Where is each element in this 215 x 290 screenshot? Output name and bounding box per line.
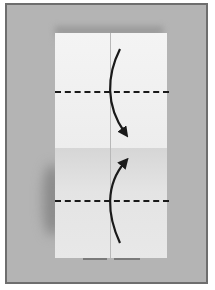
photo-frame <box>5 3 208 284</box>
arrow-up-icon <box>110 162 125 243</box>
fold-arrows <box>7 5 208 284</box>
arrow-down-icon <box>110 49 125 133</box>
